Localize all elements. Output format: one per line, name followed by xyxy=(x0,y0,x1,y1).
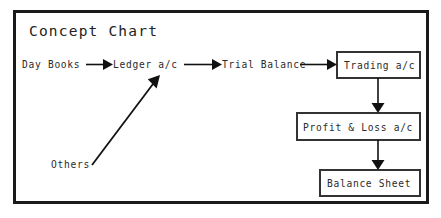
node-balance-sheet-label: Balance Sheet xyxy=(327,178,411,189)
node-day-books: Day Books xyxy=(22,59,80,70)
node-trial-balance: Trial Balance xyxy=(222,59,306,70)
page-title: Concept Chart xyxy=(29,23,158,39)
node-others: Others xyxy=(51,159,90,170)
node-ledger-ac: Ledger a/c xyxy=(113,59,178,70)
concept-chart-diagram: Concept Chart Day Books Ledger a/c Trial… xyxy=(0,0,441,218)
node-balance-sheet: Balance Sheet xyxy=(320,170,420,196)
node-trading-ac: Trading a/c xyxy=(337,52,420,78)
diagram-canvas: Concept Chart Day Books Ledger a/c Trial… xyxy=(0,0,441,218)
node-profit-loss-ac-label: Profit & Loss a/c xyxy=(303,122,413,133)
node-trading-ac-label: Trading a/c xyxy=(344,60,415,71)
node-profit-loss-ac: Profit & Loss a/c xyxy=(297,113,420,140)
